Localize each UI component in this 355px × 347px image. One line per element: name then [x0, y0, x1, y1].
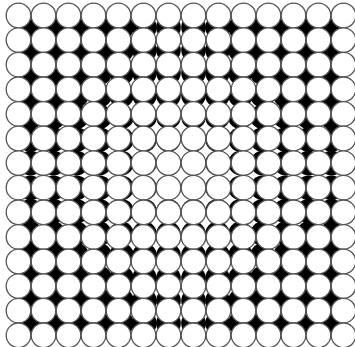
- white-circle: [81, 298, 106, 323]
- white-circle: [256, 249, 281, 274]
- white-circle: [56, 225, 81, 250]
- white-circle: [181, 28, 206, 53]
- white-circle: [81, 28, 106, 53]
- white-circle: [6, 323, 31, 347]
- white-circle: [31, 151, 56, 176]
- white-circle: [331, 77, 355, 102]
- white-circle: [106, 126, 131, 151]
- white-circle: [181, 102, 206, 127]
- white-circle: [56, 151, 81, 176]
- white-circle: [156, 200, 181, 225]
- white-circle: [331, 249, 355, 274]
- white-circle: [331, 175, 355, 200]
- white-circle: [206, 274, 231, 299]
- white-circle: [206, 151, 231, 176]
- white-circle: [6, 274, 31, 299]
- white-circle: [331, 28, 355, 53]
- white-circle: [106, 175, 131, 200]
- white-circle: [156, 274, 181, 299]
- white-circle: [331, 3, 355, 28]
- white-circle: [156, 175, 181, 200]
- white-circle: [31, 28, 56, 53]
- white-circle: [131, 151, 156, 176]
- white-circle: [206, 28, 231, 53]
- white-circle: [331, 225, 355, 250]
- white-circle: [106, 28, 131, 53]
- white-circle: [206, 102, 231, 127]
- white-circle: [6, 249, 31, 274]
- white-circle: [281, 175, 306, 200]
- white-circle: [331, 200, 355, 225]
- white-circle: [131, 28, 156, 53]
- white-circle: [131, 225, 156, 250]
- white-circle: [181, 126, 206, 151]
- white-circle: [306, 249, 331, 274]
- white-circle: [56, 102, 81, 127]
- white-circle: [31, 3, 56, 28]
- white-circle: [156, 28, 181, 53]
- white-circle: [256, 175, 281, 200]
- white-circle: [106, 249, 131, 274]
- white-circle: [31, 77, 56, 102]
- white-circle: [206, 175, 231, 200]
- white-circle: [56, 200, 81, 225]
- white-circle: [6, 102, 31, 127]
- white-circle: [331, 151, 355, 176]
- white-circle: [231, 249, 256, 274]
- white-circle: [6, 28, 31, 53]
- white-circle: [181, 274, 206, 299]
- white-circle: [181, 249, 206, 274]
- white-circle: [206, 225, 231, 250]
- white-circle: [256, 298, 281, 323]
- white-circle: [131, 298, 156, 323]
- white-circle: [281, 225, 306, 250]
- white-circle: [256, 52, 281, 77]
- white-circle: [231, 225, 256, 250]
- white-circle: [6, 175, 31, 200]
- white-circle: [81, 126, 106, 151]
- white-circle: [281, 323, 306, 347]
- white-circle: [306, 151, 331, 176]
- white-circle: [81, 323, 106, 347]
- white-circle: [106, 151, 131, 176]
- white-circle: [56, 274, 81, 299]
- white-circle: [131, 274, 156, 299]
- white-circle: [331, 323, 355, 347]
- white-circle: [156, 151, 181, 176]
- white-circle: [256, 323, 281, 347]
- white-circle: [106, 52, 131, 77]
- white-circle: [56, 298, 81, 323]
- white-circle: [231, 28, 256, 53]
- white-circle: [106, 225, 131, 250]
- white-circle: [6, 3, 31, 28]
- white-circle: [56, 3, 81, 28]
- white-circle: [131, 323, 156, 347]
- white-circle: [231, 274, 256, 299]
- white-circle: [306, 28, 331, 53]
- white-circle: [181, 3, 206, 28]
- white-circle: [156, 298, 181, 323]
- white-circle: [106, 77, 131, 102]
- white-circle: [131, 52, 156, 77]
- white-circle: [6, 225, 31, 250]
- white-circle: [156, 102, 181, 127]
- white-circle: [106, 200, 131, 225]
- white-circle: [281, 126, 306, 151]
- white-circle: [231, 52, 256, 77]
- white-circle: [206, 323, 231, 347]
- white-circle: [281, 77, 306, 102]
- white-circle: [231, 323, 256, 347]
- white-circle: [81, 225, 106, 250]
- white-circle: [231, 126, 256, 151]
- white-circle: [31, 274, 56, 299]
- white-circle: [131, 249, 156, 274]
- white-circle: [281, 298, 306, 323]
- white-circle: [31, 249, 56, 274]
- white-circle: [181, 225, 206, 250]
- white-circle: [6, 200, 31, 225]
- white-circle: [81, 274, 106, 299]
- white-circle: [206, 200, 231, 225]
- white-circle: [156, 323, 181, 347]
- white-circle: [306, 77, 331, 102]
- white-circle: [131, 77, 156, 102]
